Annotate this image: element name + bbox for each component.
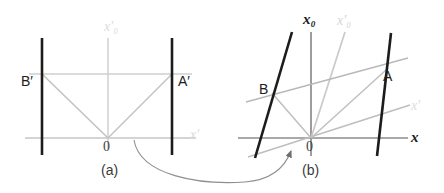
panel-b-caption: (b) [302, 163, 319, 177]
panel-a-space-axis-label: x′ [190, 128, 199, 142]
panel-b-origin-label: 0 [306, 140, 313, 154]
transformation-arrow-path [134, 140, 291, 183]
panel-b-boosted-space-axis [248, 105, 410, 157]
panel-b-label-b-text: B [259, 81, 268, 97]
panel-a-label-b-prime: B′ [21, 74, 33, 88]
panel-a-label-a-prime: A′ [178, 74, 190, 88]
panel-a-origin-label-text: 0 [103, 139, 110, 154]
panel-b-time-axis-label-text: x₀ [303, 11, 316, 27]
panel-b-space-axis-label-text: x [411, 129, 419, 145]
panel-b-time-axis-label: x₀ [303, 12, 316, 27]
panel-a-origin-label: 0 [103, 140, 110, 154]
panel-a-ray-to-a [108, 74, 172, 138]
panel-b-label-a: A [383, 69, 392, 83]
panel-a-label-b-prime-text: B′ [21, 73, 33, 89]
panel-b-label-b: B [259, 82, 268, 96]
panel-b-boosted-space-axis-label-text: x′ [411, 98, 420, 113]
panel-a-space-axis-label-text: x′ [190, 127, 199, 142]
panel-b-caption-text: (b) [302, 162, 319, 178]
panel-b-boosted-time-axis-label-text: x′₀ [337, 13, 351, 28]
panel-b-boosted-time-axis-label: x′₀ [337, 14, 351, 28]
panel-a-caption-text: (a) [101, 162, 118, 178]
panel-b-space-axis-label: x [411, 130, 419, 145]
panel-a-label-a-prime-text: A′ [178, 73, 190, 89]
panel-a-ray-to-b [42, 74, 108, 138]
transformation-arrow [134, 140, 291, 183]
panel-b-origin-label-text: 0 [306, 139, 313, 154]
figure-svg [0, 0, 444, 193]
panel-b-ray-to-b [272, 93, 311, 138]
figure-container: B′ A′ 0 x′₀ x′ (a) B A 0 x₀ x′₀ x′ x (b) [0, 0, 444, 193]
panel-b-label-a-text: A [383, 68, 392, 84]
panel-a-time-axis-label: x′₀ [104, 20, 118, 34]
panel-a-graphics [25, 38, 196, 155]
panel-a-caption: (a) [101, 163, 118, 177]
panel-a-time-axis-label-text: x′₀ [104, 19, 118, 34]
panel-b-boosted-space-axis-label: x′ [411, 99, 420, 113]
